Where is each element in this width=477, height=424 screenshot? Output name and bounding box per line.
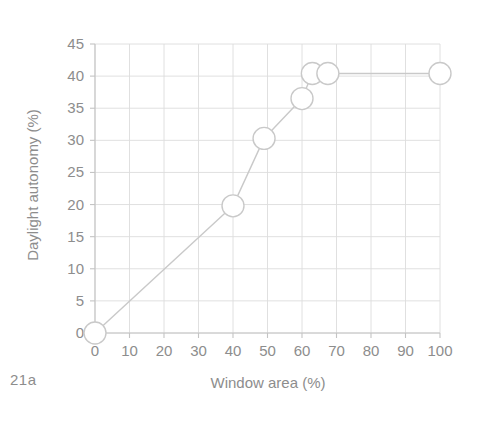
figure-caption: 21a [10,371,37,388]
y-tick-label: 35 [67,99,84,116]
data-point-marker [317,63,339,85]
y-tick-label: 5 [76,292,84,309]
y-tick-labels: 051015202530354045 [67,35,84,341]
grid-lines [95,44,440,333]
x-tick-label: 60 [294,342,311,359]
y-tick-label: 20 [67,196,84,213]
data-point-marker [222,195,244,217]
y-tick-label: 10 [67,260,84,277]
data-point-marker [429,63,451,85]
x-tick-label: 20 [156,342,173,359]
y-tick-label: 30 [67,131,84,148]
y-tick-label: 25 [67,163,84,180]
x-axis-title: Window area (%) [210,374,325,391]
x-tick-label: 40 [225,342,242,359]
y-tick-label: 45 [67,35,84,52]
data-point-marker [291,88,313,110]
x-tick-label: 100 [427,342,452,359]
y-tick-label: 0 [76,324,84,341]
data-point-marker [84,322,106,344]
y-axis-title: Daylight autonomy (%) [24,109,41,261]
x-tick-label: 50 [259,342,276,359]
y-tick-label: 40 [67,67,84,84]
x-tick-label: 10 [121,342,138,359]
axis-ticks [90,44,440,338]
x-tick-label: 80 [363,342,380,359]
x-tick-labels: 0102030405060708090100 [91,342,453,359]
daylight-autonomy-chart: 0102030405060708090100 05101520253035404… [0,0,477,424]
x-tick-label: 90 [397,342,414,359]
x-tick-label: 30 [190,342,207,359]
data-point-marker [253,127,275,149]
y-tick-label: 15 [67,228,84,245]
figure-21a: 0102030405060708090100 05101520253035404… [0,0,477,424]
x-tick-label: 70 [328,342,345,359]
